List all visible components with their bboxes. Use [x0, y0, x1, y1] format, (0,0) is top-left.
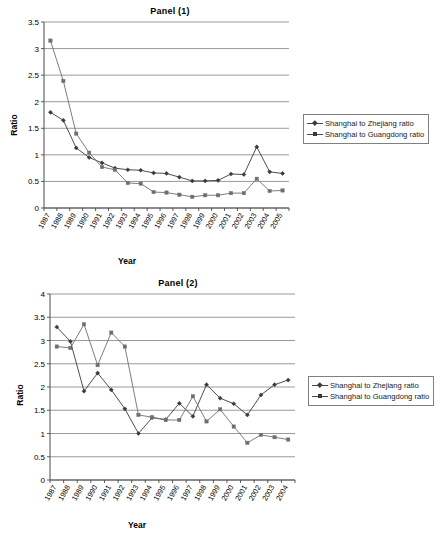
legend-marker-square-icon — [307, 129, 323, 140]
svg-text:1997: 1997 — [165, 212, 181, 231]
svg-text:2005: 2005 — [268, 212, 284, 231]
svg-text:3: 3 — [41, 337, 46, 346]
svg-text:1987: 1987 — [36, 212, 52, 231]
legend-label-zhejiang: Shanghai to Zhejiang ratio — [323, 118, 414, 129]
svg-text:4: 4 — [41, 290, 46, 299]
svg-text:0: 0 — [41, 476, 46, 485]
panel-1: Panel (1) 00.511.522.533.519871988198919… — [0, 0, 440, 272]
legend-item-guangdong: Shanghai to Guangdong ratio — [307, 129, 424, 140]
panel-1-x-axis-title: Year — [118, 256, 136, 266]
svg-text:2: 2 — [35, 98, 40, 107]
svg-text:1995: 1995 — [151, 484, 167, 503]
svg-text:3.5: 3.5 — [28, 18, 40, 27]
svg-text:1987: 1987 — [43, 484, 59, 503]
svg-text:0.5: 0.5 — [28, 177, 40, 186]
svg-text:1999: 1999 — [206, 484, 222, 503]
svg-text:2002: 2002 — [247, 484, 263, 503]
svg-text:3.5: 3.5 — [34, 313, 46, 322]
legend-label-guangdong: Shanghai to Guangdong ratio — [328, 391, 429, 402]
svg-text:2004: 2004 — [274, 484, 290, 503]
svg-text:1993: 1993 — [124, 484, 140, 503]
svg-text:2000: 2000 — [204, 212, 220, 231]
svg-text:0: 0 — [35, 204, 40, 213]
svg-text:1994: 1994 — [138, 484, 154, 503]
panel-2: Panel (2) 00.511.522.533.541987198819891… — [0, 272, 440, 540]
svg-text:1990: 1990 — [75, 212, 91, 231]
svg-text:1: 1 — [41, 430, 46, 439]
svg-text:2003: 2003 — [242, 212, 258, 231]
svg-text:3: 3 — [35, 45, 40, 54]
svg-text:2: 2 — [41, 383, 46, 392]
legend-marker-square-icon — [312, 391, 328, 402]
svg-text:1989: 1989 — [62, 212, 78, 231]
svg-text:1999: 1999 — [191, 212, 207, 231]
svg-text:1988: 1988 — [56, 484, 72, 503]
svg-text:2.5: 2.5 — [28, 71, 40, 80]
svg-text:1994: 1994 — [126, 212, 142, 231]
legend-marker-diamond-icon — [312, 380, 328, 391]
panel-2-x-axis-title: Year — [128, 520, 146, 530]
svg-text:1991: 1991 — [88, 212, 104, 231]
svg-text:1997: 1997 — [179, 484, 195, 503]
svg-text:0.5: 0.5 — [34, 453, 46, 462]
svg-text:1988: 1988 — [49, 212, 65, 231]
svg-text:1: 1 — [35, 151, 40, 160]
panel-2-y-axis-title: Ratio — [15, 375, 25, 415]
svg-text:2003: 2003 — [260, 484, 276, 503]
svg-text:1995: 1995 — [139, 212, 155, 231]
panel-2-plot: 00.511.522.533.5419871988198919901991199… — [0, 272, 440, 540]
svg-text:1992: 1992 — [111, 484, 127, 503]
svg-text:1.5: 1.5 — [34, 406, 46, 415]
svg-text:2002: 2002 — [230, 211, 246, 230]
legend-label-guangdong: Shanghai to Guangdong ratio — [323, 129, 424, 140]
svg-text:2001: 2001 — [233, 484, 249, 503]
svg-text:1998: 1998 — [192, 484, 208, 503]
svg-text:1990: 1990 — [83, 484, 99, 503]
legend-marker-diamond-icon — [307, 118, 323, 129]
panel-1-y-axis-title: Ratio — [9, 105, 19, 145]
legend-item-zhejiang: Shanghai to Zhejiang ratio — [307, 118, 424, 129]
svg-text:1998: 1998 — [178, 212, 194, 231]
legend-label-zhejiang: Shanghai to Zhejiang ratio — [328, 380, 419, 391]
legend-item-zhejiang: Shanghai to Zhejiang ratio — [312, 380, 429, 391]
figure-root: Panel (1) 00.511.522.533.519871988198919… — [0, 0, 440, 540]
svg-text:2004: 2004 — [255, 212, 271, 231]
legend-item-guangdong: Shanghai to Guangdong ratio — [312, 391, 429, 402]
svg-text:1993: 1993 — [114, 212, 130, 231]
svg-text:1996: 1996 — [165, 484, 181, 503]
svg-text:1991: 1991 — [97, 484, 113, 503]
panel-2-legend: Shanghai to Zhejiang ratio Shanghai to G… — [308, 376, 434, 406]
svg-text:2.5: 2.5 — [34, 360, 46, 369]
svg-text:1989: 1989 — [70, 484, 86, 503]
svg-text:2001: 2001 — [217, 212, 233, 231]
svg-text:1.5: 1.5 — [28, 124, 40, 133]
panel-1-legend: Shanghai to Zhejiang ratio Shanghai to G… — [303, 114, 429, 144]
svg-text:2000: 2000 — [219, 484, 235, 503]
svg-text:1996: 1996 — [152, 212, 168, 231]
svg-text:1992: 1992 — [101, 212, 117, 231]
